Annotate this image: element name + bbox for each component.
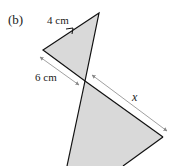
- lower-triangle: [67, 81, 163, 166]
- left-segment-label: 6 cm: [35, 71, 57, 83]
- similar-triangles-diagram: (b) 4 cm 6 cm x: [0, 0, 180, 166]
- right-segment-label: x: [131, 90, 138, 104]
- top-edge-label: 4 cm: [47, 14, 69, 26]
- part-label: (b): [8, 12, 23, 27]
